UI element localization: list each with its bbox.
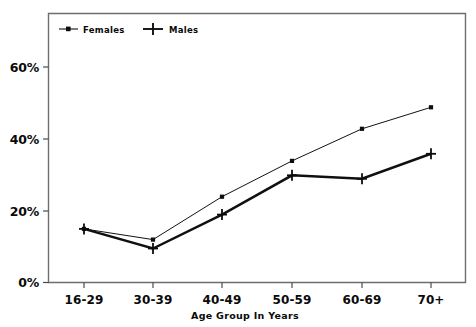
chart-container: 60% 40% 20% 0% 16-29 30-39 40-49 50-59 6… <box>0 0 476 327</box>
data-point-females-40-49 <box>220 195 224 199</box>
data-point-females-70+ <box>429 105 433 109</box>
line-chart: 60% 40% 20% 0% 16-29 30-39 40-49 50-59 6… <box>0 0 476 327</box>
data-point-females-50-59 <box>290 159 294 163</box>
y-tick-label-20: 20% <box>10 204 40 219</box>
x-tick-label-16-29: 16-29 <box>65 293 104 307</box>
y-tick-label-60: 60% <box>10 60 40 75</box>
y-tick-label-0: 0% <box>18 275 39 290</box>
x-tick-label-30-39: 30-39 <box>134 293 173 307</box>
x-tick-label-50-59: 50-59 <box>273 293 312 307</box>
data-point-females-30-39 <box>151 238 155 242</box>
x-tick-label-60-69: 60-69 <box>343 293 382 307</box>
y-tick-label-40: 40% <box>10 132 40 147</box>
x-axis-title: Age Group In Years <box>191 310 299 321</box>
x-tick-label-70plus: 70+ <box>417 293 444 307</box>
legend-label-males: Males <box>169 25 198 35</box>
x-tick-label-40-49: 40-49 <box>203 293 242 307</box>
legend-label-females: Females <box>83 25 125 35</box>
data-point-females-60-69 <box>360 127 364 131</box>
legend-marker-square-icon <box>66 27 71 32</box>
